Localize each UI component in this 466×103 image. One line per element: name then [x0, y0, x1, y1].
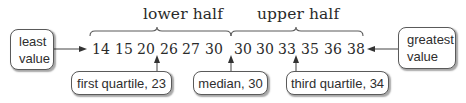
data-value: 33	[278, 41, 296, 57]
greatest-value-line1: greatest	[407, 31, 454, 48]
greatest-value-line2: value	[407, 48, 438, 65]
lower-half-brace	[90, 27, 231, 36]
lower-half-label: lower half	[143, 5, 223, 23]
first-quartile-callout: first quartile, 23	[71, 71, 172, 95]
data-value: 27	[182, 41, 200, 57]
data-values-row: 14 15 20 26 27 30 30 30 33 35 36 38	[0, 41, 466, 63]
upper-half-label: upper half	[257, 5, 339, 23]
data-value: 36	[324, 41, 342, 57]
data-value: 15	[115, 41, 133, 57]
greatest-value-callout: greatest value	[398, 27, 456, 69]
median-callout: median, 30	[193, 71, 268, 95]
data-value: 20	[137, 41, 155, 57]
data-value: 30	[205, 41, 223, 57]
least-value-line2: value	[19, 50, 50, 67]
least-value-callout: least value	[10, 29, 54, 70]
upper-half-brace	[231, 27, 363, 36]
quartile-diagram: lower half upper half 14 15 20 26 27 30 …	[0, 0, 466, 103]
data-value: 14	[92, 41, 110, 57]
third-quartile-callout: third quartile, 34	[286, 71, 389, 95]
least-value-line1: least	[19, 33, 46, 50]
data-value: 35	[301, 41, 319, 57]
data-value: 30	[256, 41, 274, 57]
data-value: 30	[234, 41, 252, 57]
data-value: 38	[347, 41, 365, 57]
data-value: 26	[160, 41, 178, 57]
